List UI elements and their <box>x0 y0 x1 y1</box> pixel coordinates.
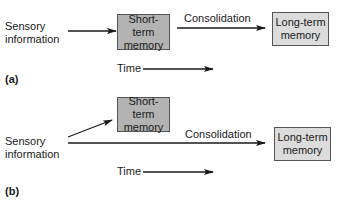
sensory-line1: Sensory <box>5 135 59 148</box>
consolidation-label-b: Consolidation <box>185 128 252 141</box>
stm-line1: Short-term <box>118 95 169 121</box>
sensory-to-stm-arrow-b <box>68 120 112 137</box>
short-term-memory-box-a: Short-term memory <box>117 14 170 50</box>
stm-line2: memory <box>118 121 169 134</box>
time-label-a: Time <box>117 62 141 75</box>
ltm-line1: Long-term <box>275 16 325 29</box>
sensory-line2: information <box>5 148 59 161</box>
sensory-line1: Sensory <box>5 20 59 33</box>
ltm-line2: memory <box>275 29 325 42</box>
panel-label-a: (a) <box>5 73 18 85</box>
sensory-line2: information <box>5 33 59 46</box>
sensory-information-b: Sensory information <box>5 135 59 161</box>
short-term-memory-box-b: Short-term memory <box>117 97 170 132</box>
time-label-b: Time <box>117 165 141 178</box>
stm-line1: Short-term <box>118 13 169 39</box>
panel-label-b: (b) <box>5 185 19 197</box>
long-term-memory-box-b: Long-term memory <box>274 127 331 161</box>
ltm-line2: memory <box>277 144 327 157</box>
consolidation-label-a: Consolidation <box>184 12 251 25</box>
long-term-memory-box-a: Long-term memory <box>272 12 329 46</box>
sensory-information-a: Sensory information <box>5 20 59 46</box>
ltm-line1: Long-term <box>277 131 327 144</box>
stm-line2: memory <box>118 39 169 52</box>
